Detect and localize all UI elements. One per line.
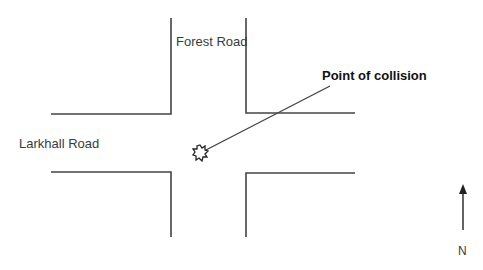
kerb-bottom-left xyxy=(51,172,171,237)
kerb-top-right xyxy=(246,18,355,113)
point-of-collision-label: Point of collision xyxy=(322,68,427,83)
forest-road-label: Forest Road xyxy=(176,34,248,49)
north-label: N xyxy=(458,244,467,258)
collision-burst-icon xyxy=(193,145,208,161)
larkhall-road-label: Larkhall Road xyxy=(19,136,99,151)
kerb-bottom-right xyxy=(246,173,355,237)
north-arrow-icon xyxy=(459,184,467,230)
collision-pointer-line xyxy=(204,86,330,151)
kerb-top-left xyxy=(51,18,171,114)
